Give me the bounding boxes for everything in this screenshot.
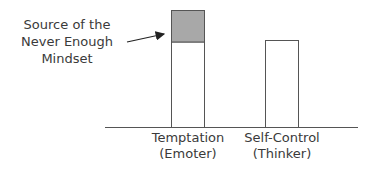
temptation-bar	[172, 42, 205, 128]
category-label-temptation: Temptation (Emoter)	[138, 130, 238, 162]
annotation-line-3: Mindset	[8, 50, 126, 67]
self-control-bar	[266, 41, 299, 128]
annotation-line-1: Source of the	[8, 16, 126, 33]
category-subtitle: (Emoter)	[138, 146, 238, 162]
category-title: Temptation	[138, 130, 238, 146]
category-subtitle: (Thinker)	[232, 146, 332, 162]
temptation-excess-segment	[172, 11, 205, 43]
annotation-line-2: Never Enough	[8, 33, 126, 50]
category-title: Self-Control	[232, 130, 332, 146]
arrow-icon	[127, 34, 164, 42]
category-label-self-control: Self-Control (Thinker)	[232, 130, 332, 162]
annotation-label: Source of the Never Enough Mindset	[8, 16, 126, 67]
